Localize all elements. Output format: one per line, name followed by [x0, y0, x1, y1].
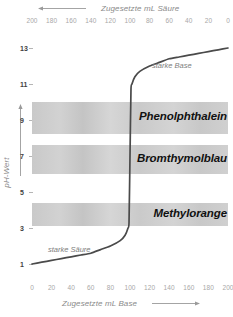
bottom-tick-200: 200	[222, 284, 233, 291]
bottom-tick-160: 160	[183, 284, 194, 291]
annotation-starke-saeure: starke Säure	[48, 245, 91, 254]
bottom-tick-20: 20	[48, 284, 55, 291]
bottom-axis-title: Zugesetzte mL Base	[62, 299, 137, 308]
bottom-axis-ticks: 020406080100120140160180200	[0, 284, 233, 294]
base-direction-arrow-icon	[152, 300, 200, 307]
bottom-tick-80: 80	[107, 284, 114, 291]
bottom-tick-100: 100	[124, 284, 135, 291]
titration-curve-chart: Zugesetzte mL Säure 20018016014012010080…	[0, 0, 233, 317]
bottom-tick-40: 40	[67, 284, 74, 291]
bottom-tick-120: 120	[144, 284, 155, 291]
bottom-tick-0: 0	[30, 284, 34, 291]
titration-curve	[0, 0, 233, 317]
bottom-tick-140: 140	[164, 284, 175, 291]
bottom-tick-60: 60	[87, 284, 94, 291]
bottom-tick-180: 180	[203, 284, 214, 291]
annotation-starke-base: starke Base	[152, 61, 192, 70]
